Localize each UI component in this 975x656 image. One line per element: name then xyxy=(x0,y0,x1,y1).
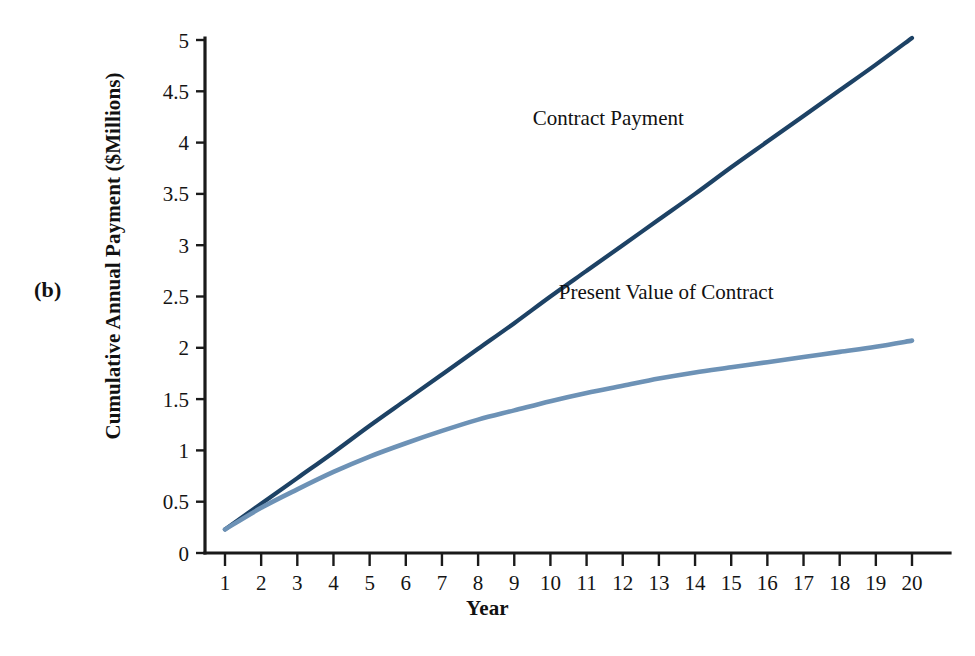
x-tick-label: 9 xyxy=(509,571,520,595)
figure-panel: (b) Cumulative Annual Payment ($Millions… xyxy=(0,0,975,656)
y-tick-label: 3 xyxy=(179,234,190,258)
x-tick-label: 10 xyxy=(540,571,561,595)
y-tick-label: 0 xyxy=(179,542,190,566)
y-tick-label: 5 xyxy=(179,29,190,53)
x-tick-label: 12 xyxy=(612,571,633,595)
x-tick-group: 1234567891011121314151617181920 xyxy=(220,553,923,595)
x-tick-label: 13 xyxy=(648,571,669,595)
x-tick-label: 15 xyxy=(721,571,742,595)
y-tick-group: 00.511.522.533.544.55 xyxy=(163,29,205,566)
x-tick-label: 11 xyxy=(576,571,596,595)
y-tick-label: 3.5 xyxy=(163,182,189,206)
x-tick-label: 7 xyxy=(437,571,448,595)
x-tick-label: 18 xyxy=(829,571,850,595)
x-tick-label: 16 xyxy=(757,571,778,595)
y-tick-label: 1.5 xyxy=(163,388,189,412)
x-tick-label: 19 xyxy=(865,571,886,595)
x-tick-label: 6 xyxy=(401,571,412,595)
x-tick-label: 1 xyxy=(220,571,231,595)
x-tick-label: 2 xyxy=(256,571,267,595)
y-tick-label: 4 xyxy=(179,131,190,155)
x-tick-label: 14 xyxy=(685,571,707,595)
x-tick-label: 20 xyxy=(902,571,923,595)
series-annotation-1: Present Value of Contract xyxy=(559,280,774,304)
x-tick-label: 17 xyxy=(793,571,814,595)
y-tick-label: 0.5 xyxy=(163,490,189,514)
y-tick-label: 4.5 xyxy=(163,80,189,104)
series-line-1 xyxy=(225,341,912,530)
x-tick-label: 4 xyxy=(328,571,339,595)
series-annotation-0: Contract Payment xyxy=(533,106,684,130)
series-label-group: Contract PaymentPresent Value of Contrac… xyxy=(533,106,774,303)
x-tick-label: 5 xyxy=(364,571,375,595)
x-tick-label: 3 xyxy=(292,571,303,595)
y-tick-label: 1 xyxy=(179,439,190,463)
chart-plot-area: 00.511.522.533.544.55 123456789101112131… xyxy=(0,0,975,656)
x-tick-label: 8 xyxy=(473,571,484,595)
y-tick-label: 2.5 xyxy=(163,285,189,309)
y-tick-label: 2 xyxy=(179,336,190,360)
